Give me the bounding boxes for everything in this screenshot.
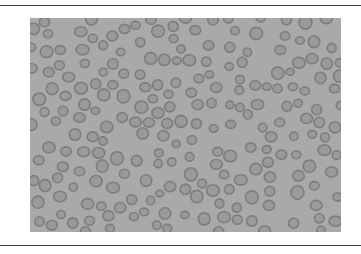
red-blood-cells — [30, 18, 341, 232]
top-rule — [0, 5, 361, 6]
bottom-rule — [0, 245, 361, 246]
blood-smear-micrograph — [30, 18, 341, 232]
